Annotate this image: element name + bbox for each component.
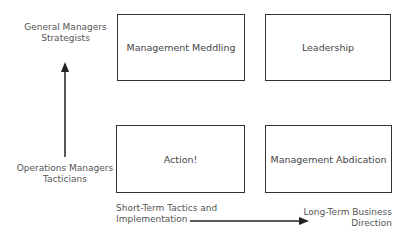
vertical-arrow [61, 62, 69, 157]
y-top-line1: General Managers [18, 22, 113, 33]
quadrant-top-left-label: Management Meddling [126, 42, 235, 53]
quadrant-bottom-right-label: Management Abdication [270, 154, 386, 165]
x-axis-right-label: Long-Term Business Direction [300, 207, 392, 229]
quadrant-top-right-label: Leadership [302, 42, 354, 53]
quadrant-top-left: Management Meddling [117, 14, 245, 81]
y-axis-top-label: General Managers Strategists [18, 22, 113, 44]
quadrant-bottom-left: Action! [116, 125, 245, 193]
x-axis-left-label: Short-Term Tactics and Implementation [116, 203, 236, 225]
y-top-line2: Strategists [18, 33, 113, 44]
x-right-line2: Direction [300, 218, 392, 229]
x-left-line1: Short-Term Tactics and [116, 203, 236, 214]
x-left-line2: Implementation [116, 214, 236, 225]
quadrant-bottom-left-label: Action! [164, 154, 198, 165]
quadrant-bottom-right: Management Abdication [265, 125, 392, 193]
y-bottom-line1: Operations Managers [15, 163, 115, 174]
y-bottom-line2: Tacticians [15, 174, 115, 185]
y-axis-bottom-label: Operations Managers Tacticians [15, 163, 115, 185]
x-right-line1: Long-Term Business [300, 207, 392, 218]
quadrant-top-right: Leadership [265, 14, 391, 81]
